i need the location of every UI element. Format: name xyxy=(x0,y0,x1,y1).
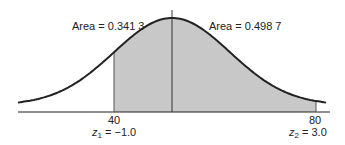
area-right-label: Area = 0.498 7 xyxy=(209,20,281,32)
z1-label: z1 = −1.0 xyxy=(91,126,136,140)
tick-label-40: 40 xyxy=(108,114,120,126)
area-left-label: Area = 0.341 3 xyxy=(72,20,144,32)
z2-label: z2 = 3.0 xyxy=(288,126,327,140)
shaded-area xyxy=(114,18,316,112)
normal-curve-diagram: Area = 0.341 3 Area = 0.498 7 40 z1 = −1… xyxy=(0,0,345,145)
tick-label-80: 80 xyxy=(309,114,321,126)
